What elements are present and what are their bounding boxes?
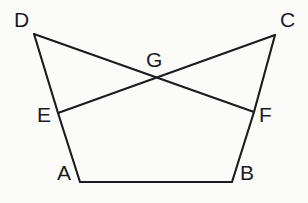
geometry-figure: D C E F A B G (0, 0, 308, 203)
vertex-label-E: E (37, 104, 51, 125)
vertex-label-C: C (280, 9, 295, 30)
segment-D-F (34, 34, 254, 112)
figure-canvas (0, 0, 308, 203)
vertex-label-F: F (259, 104, 272, 125)
vertex-label-A: A (57, 162, 71, 183)
segment-E-C (58, 35, 275, 113)
vertex-label-B: B (240, 162, 254, 183)
vertex-label-D: D (14, 9, 29, 30)
vertex-label-G: G (146, 49, 162, 70)
